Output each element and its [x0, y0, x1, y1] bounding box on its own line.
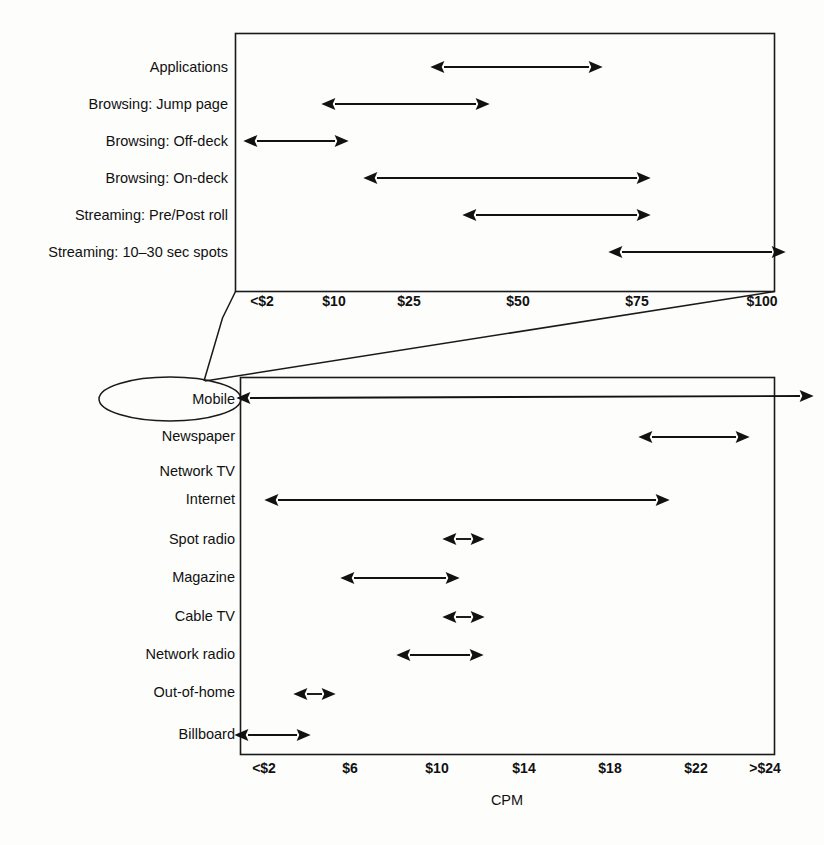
top-tick-label-1: $10	[322, 293, 346, 309]
range-chart-figure: Applications Browsing: Jump page Browsin…	[0, 0, 824, 845]
bottom-cat-label-spot-radio: Spot radio	[169, 531, 235, 547]
bottom-cat-label-billboard: Billboard	[179, 726, 235, 742]
bottom-tick-label-1: $6	[342, 760, 358, 776]
bottom-chart-frame	[241, 378, 775, 755]
top-tick-label-3: $50	[506, 293, 530, 309]
bottom-tick-label-6: >$24	[749, 760, 781, 776]
bottom-axis-title-cpm: CPM	[491, 792, 523, 808]
bottom-cat-label-network-tv: Network TV	[160, 463, 236, 479]
top-cat-label-streaming-10-30-sec-spots: Streaming: 10–30 sec spots	[48, 244, 228, 260]
callout-line-left	[204, 292, 236, 382]
bottom-range-mobile	[250, 396, 800, 398]
bottom-cat-label-network-radio: Network radio	[146, 646, 235, 662]
top-cat-label-applications: Applications	[150, 59, 228, 75]
top-chart-group: Applications Browsing: Jump page Browsin…	[48, 34, 778, 310]
top-cat-label-browsing-jump-page: Browsing: Jump page	[89, 96, 228, 112]
top-cat-label-browsing-on-deck: Browsing: On-deck	[106, 170, 229, 186]
figure-canvas: Applications Browsing: Jump page Browsin…	[0, 0, 824, 845]
callout-line-right	[205, 292, 775, 382]
bottom-tick-label-0: <$2	[252, 760, 276, 776]
bottom-tick-label-3: $14	[512, 760, 536, 776]
bottom-cat-label-newspaper: Newspaper	[162, 428, 236, 444]
top-cat-label-streaming-pre-post-roll: Streaming: Pre/Post roll	[75, 207, 228, 223]
bottom-cat-label-mobile: Mobile	[192, 391, 235, 407]
top-tick-label-2: $25	[397, 293, 421, 309]
top-cat-label-browsing-off-deck: Browsing: Off-deck	[106, 133, 229, 149]
bottom-cat-label-magazine: Magazine	[172, 569, 235, 585]
bottom-tick-label-5: $22	[684, 760, 708, 776]
bottom-cat-label-internet: Internet	[186, 491, 235, 507]
callout-connector-group	[204, 292, 775, 382]
top-tick-label-4: $75	[625, 293, 649, 309]
bottom-chart-group: Mobile Newspaper Network TV Internet Spo…	[99, 377, 800, 808]
bottom-tick-label-4: $18	[598, 760, 622, 776]
bottom-cat-label-cable-tv: Cable TV	[175, 608, 236, 624]
bottom-tick-label-2: $10	[425, 760, 449, 776]
top-tick-label-0: <$2	[250, 293, 274, 309]
bottom-cat-label-out-of-home: Out-of-home	[154, 684, 235, 700]
